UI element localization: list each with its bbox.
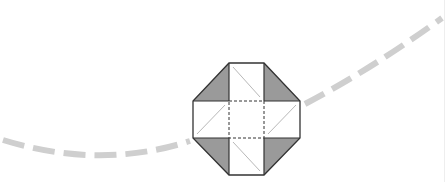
dashed-curve-left-segment (3, 140, 190, 155)
diagram-canvas (0, 0, 445, 182)
folded-octagon-diagram (0, 0, 445, 182)
octagon-paper-shape (193, 63, 300, 175)
dashed-curve-right-segment (305, 18, 442, 104)
